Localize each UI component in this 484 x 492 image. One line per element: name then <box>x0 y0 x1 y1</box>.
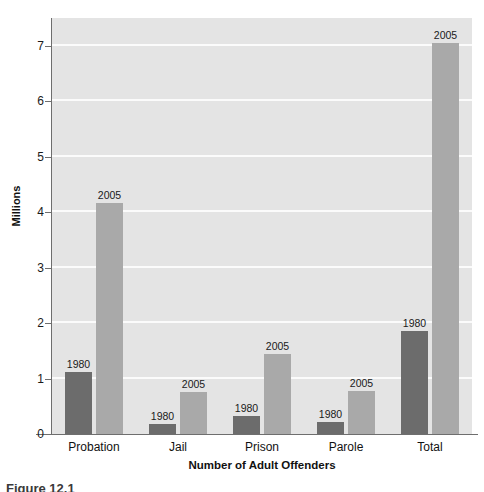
bar-probation-2005 <box>96 203 123 434</box>
x-axis-title: Number of Adult Offenders <box>52 459 472 471</box>
bar-jail-2005 <box>180 392 207 434</box>
y-axis-line <box>51 18 52 435</box>
y-tick-label: 7 <box>20 39 44 53</box>
gridline <box>52 44 472 46</box>
bar-value-label: 2005 <box>256 340 300 352</box>
x-category-label-total: Total <box>375 440 484 454</box>
figure-caption: Figure 12.1 <box>6 481 75 492</box>
bar-parole-1980 <box>317 422 344 434</box>
plot-area: 1980200519802005198020051980200519802005 <box>52 18 472 434</box>
bar-value-label: 1980 <box>393 317 437 329</box>
y-tick-mark <box>45 379 52 380</box>
bar-parole-2005 <box>348 391 375 434</box>
y-tick-mark <box>45 434 52 435</box>
bar-value-label: 2005 <box>424 29 468 41</box>
y-tick-mark <box>45 323 52 324</box>
bar-value-label: 2005 <box>172 378 216 390</box>
bar-value-label: 1980 <box>225 402 269 414</box>
gridline <box>52 99 472 101</box>
y-tick-label: 5 <box>20 150 44 164</box>
y-tick-label: 6 <box>20 94 44 108</box>
y-tick-mark <box>45 268 52 269</box>
y-tick-label: 1 <box>20 372 44 386</box>
y-tick-label: 0 <box>20 427 44 441</box>
y-tick-mark <box>45 101 52 102</box>
bar-value-label: 1980 <box>57 358 101 370</box>
x-axis-line <box>36 434 478 435</box>
gridline <box>52 155 472 157</box>
bar-prison-2005 <box>264 354 291 434</box>
bar-total-1980 <box>401 331 428 434</box>
y-tick-label: 3 <box>20 261 44 275</box>
y-tick-label: 4 <box>20 205 44 219</box>
bar-value-label: 2005 <box>340 377 384 389</box>
figure-container: Millions 1980200519802005198020051980200… <box>0 0 484 492</box>
y-tick-mark <box>45 157 52 158</box>
bar-probation-1980 <box>65 372 92 434</box>
bar-value-label: 2005 <box>88 189 132 201</box>
y-tick-label: 2 <box>20 316 44 330</box>
bar-prison-1980 <box>233 416 260 434</box>
y-tick-mark <box>45 46 52 47</box>
y-tick-mark <box>45 212 52 213</box>
bar-value-label: 1980 <box>309 408 353 420</box>
bar-total-2005 <box>432 43 459 434</box>
bar-jail-1980 <box>149 424 176 434</box>
bar-value-label: 1980 <box>141 410 185 422</box>
